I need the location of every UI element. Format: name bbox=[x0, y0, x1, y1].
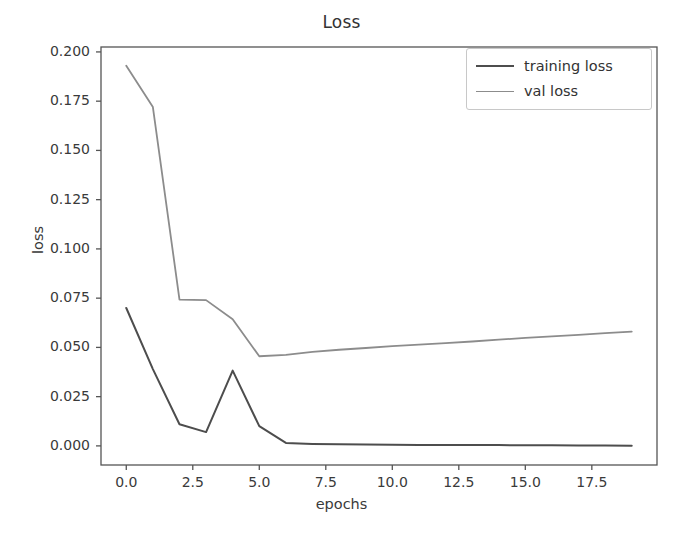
x-tick-label: 7.5 bbox=[296, 474, 356, 490]
y-tick-label: 0.000 bbox=[30, 437, 90, 453]
y-axis-label: loss bbox=[30, 210, 46, 270]
y-tick-label: 0.175 bbox=[30, 92, 90, 108]
y-tick-label: 0.200 bbox=[30, 43, 90, 59]
x-tick-label: 12.5 bbox=[429, 474, 489, 490]
figure-canvas: Loss 0.0000.0250.0500.0750.1000.1250.150… bbox=[0, 0, 683, 543]
chart-legend: training loss val loss bbox=[466, 48, 652, 110]
x-tick-label: 10.0 bbox=[362, 474, 422, 490]
x-axis-ticks bbox=[126, 465, 592, 470]
legend-swatch-training-loss bbox=[476, 65, 514, 67]
legend-label-val-loss: val loss bbox=[524, 84, 578, 99]
y-tick-label: 0.125 bbox=[30, 191, 90, 207]
y-tick-label: 0.075 bbox=[30, 289, 90, 305]
y-tick-label: 0.025 bbox=[30, 388, 90, 404]
legend-entry-training-loss: training loss bbox=[476, 54, 613, 78]
figure-caption bbox=[0, 524, 683, 543]
x-tick-label: 17.5 bbox=[562, 474, 622, 490]
y-tick-label: 0.150 bbox=[30, 141, 90, 157]
y-axis-ticks bbox=[96, 52, 101, 446]
legend-swatch-val-loss bbox=[476, 91, 514, 92]
x-tick-label: 5.0 bbox=[229, 474, 289, 490]
x-axis-label: epochs bbox=[0, 496, 683, 512]
legend-entry-val-loss: val loss bbox=[476, 79, 578, 103]
legend-label-training-loss: training loss bbox=[524, 59, 613, 74]
y-tick-label: 0.050 bbox=[30, 338, 90, 354]
x-tick-label: 0.0 bbox=[96, 474, 156, 490]
x-tick-label: 15.0 bbox=[495, 474, 555, 490]
x-tick-label: 2.5 bbox=[163, 474, 223, 490]
